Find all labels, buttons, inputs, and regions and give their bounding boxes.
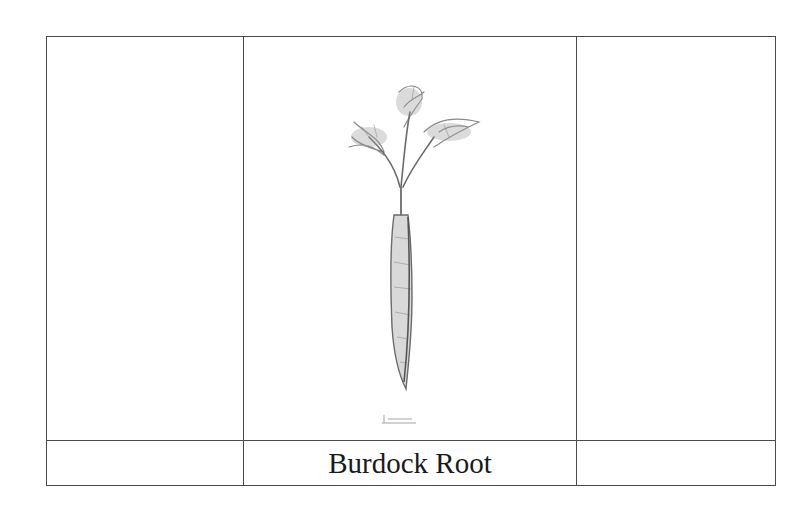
caption-label: Burdock Root <box>244 441 577 486</box>
table-row-caption: Burdock Root <box>47 441 776 486</box>
table-row-image <box>47 37 776 441</box>
table-cell-empty-right <box>577 37 776 441</box>
table-cell-empty-left <box>47 37 244 441</box>
table-cell-image <box>244 37 577 441</box>
stem-right <box>403 137 434 187</box>
burdock-root-illustration <box>244 37 576 441</box>
card-table: Burdock Root <box>46 36 776 486</box>
table-cell-empty-right <box>577 441 776 486</box>
table-cell-empty-left <box>47 441 244 486</box>
signature-mark <box>382 415 416 423</box>
